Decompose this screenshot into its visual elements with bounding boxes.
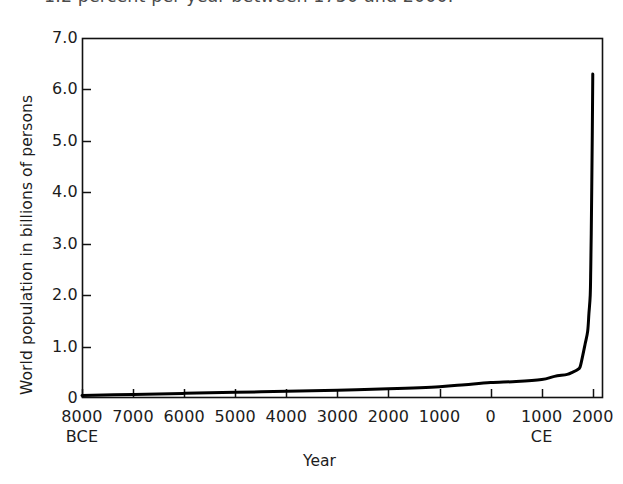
axes-border <box>83 39 603 398</box>
population-chart-figure: World population in billions of persons … <box>0 0 623 484</box>
population-line <box>82 74 593 395</box>
plot-area <box>0 0 623 484</box>
axes-frame <box>83 39 603 398</box>
population-curve <box>82 74 593 395</box>
axis-tick-marks <box>82 90 594 399</box>
